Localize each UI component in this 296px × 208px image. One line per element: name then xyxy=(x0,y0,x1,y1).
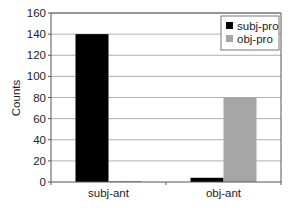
y-tick-label: 160 xyxy=(27,7,46,19)
bar-obj-pro-obj-ant xyxy=(224,98,257,183)
y-tick-label: 60 xyxy=(33,113,46,125)
bar-subj-pro-obj-ant xyxy=(191,178,224,182)
legend-label-obj-pro: obj-pro xyxy=(237,33,273,45)
bar-subj-pro-subj-ant xyxy=(76,34,109,182)
y-axis-title: Counts xyxy=(10,80,22,117)
y-tick-label: 80 xyxy=(33,92,46,104)
x-tick-label: obj-ant xyxy=(206,187,242,199)
y-tick-label: 140 xyxy=(27,28,46,40)
bars xyxy=(76,34,257,182)
y-tick-label: 0 xyxy=(40,176,46,188)
legend: subj-proobj-pro xyxy=(221,16,279,50)
x-tick-label: subj-ant xyxy=(88,187,130,199)
y-tick-label: 120 xyxy=(27,49,46,61)
y-tick-label: 100 xyxy=(27,70,46,82)
legend-swatch-obj-pro xyxy=(226,35,233,42)
x-tick-labels: subj-antobj-ant xyxy=(88,187,242,199)
legend-swatch-subj-pro xyxy=(226,22,233,29)
bar-chart: 020406080100120140160 subj-antobj-ant Co… xyxy=(0,0,296,208)
y-tick-label: 20 xyxy=(33,155,46,167)
y-tick-label: 40 xyxy=(33,134,46,146)
y-tick-labels: 020406080100120140160 xyxy=(27,7,46,188)
legend-label-subj-pro: subj-pro xyxy=(237,20,279,32)
